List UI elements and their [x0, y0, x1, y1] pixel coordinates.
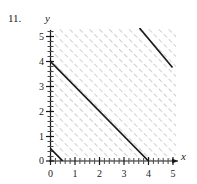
- y-tick-label-5: 5: [30, 31, 44, 42]
- y-tick-label-4: 4: [30, 56, 44, 67]
- y-tick-label-3: 3: [30, 81, 44, 92]
- x-tick-label-2: 2: [93, 168, 107, 179]
- x-tick-label-3: 3: [117, 168, 131, 179]
- x-tick-label-1: 1: [68, 168, 82, 179]
- y-tick-label-0: 0: [30, 155, 44, 166]
- x-tick-label-5: 5: [166, 168, 180, 179]
- y-tick-label-1: 1: [30, 131, 44, 142]
- x-tick-label-4: 4: [142, 168, 156, 179]
- y-tick-label-2: 2: [30, 106, 44, 117]
- x-tick-label-0: 0: [44, 168, 58, 179]
- graph-figure: 11. y x: [0, 0, 197, 184]
